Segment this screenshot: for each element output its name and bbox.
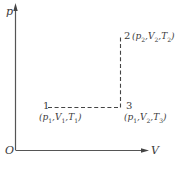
point-2-label: 2 — [124, 31, 130, 41]
diagram-canvas — [0, 0, 175, 173]
y-axis-arrow-icon — [13, 3, 17, 11]
pv-diagram: p V O 2 (p2,V2,T2) 1 (p1,V1,T1) 3 (p1,V2… — [0, 0, 175, 173]
point-2-state: (p2,V2,T2) — [132, 32, 175, 43]
point-1-label: 1 — [43, 101, 49, 111]
y-axis-label: p — [6, 6, 13, 17]
point-1-state: (p1,V1,T1) — [39, 113, 82, 124]
point-3-state: (p1,V2,T3) — [124, 113, 167, 124]
origin-label: O — [5, 145, 14, 156]
point-3-label: 3 — [126, 101, 132, 111]
x-axis-label: V — [151, 145, 159, 156]
x-axis-arrow-icon — [141, 148, 149, 152]
